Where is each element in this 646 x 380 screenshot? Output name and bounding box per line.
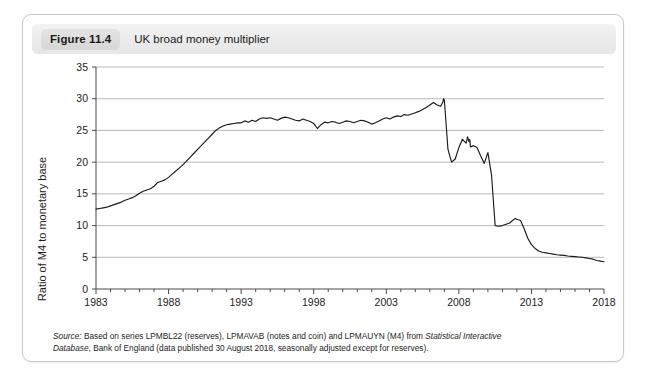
figure-title: UK broad money multiplier: [134, 33, 270, 45]
grid-lines: [96, 67, 604, 257]
money-multiplier-line-chart: 05101520253035 1983198819931998200320082…: [32, 59, 616, 321]
y-tick-label: 0: [82, 283, 88, 295]
x-tick-label: 2013: [520, 296, 544, 308]
y-tick-label: 10: [76, 219, 88, 231]
y-tick-label: 30: [76, 92, 88, 104]
source-italic-1: Statistical Interactive: [425, 331, 501, 341]
source-prefix: Source:: [53, 331, 82, 341]
source-line-2-text: , Bank of England (data published 30 Aug…: [89, 343, 429, 353]
chart-plot-area: 05101520253035 1983198819931998200320082…: [32, 59, 616, 321]
source-note: Source: Based on series LPMBL22 (reserve…: [53, 331, 598, 354]
figure-card: Figure 11.4 UK broad money multiplier 05…: [22, 14, 624, 362]
figure-header: Figure 11.4 UK broad money multiplier: [32, 24, 616, 54]
y-axis-ticks: 05101520253035: [76, 61, 96, 295]
x-tick-label: 2018: [592, 296, 616, 308]
x-tick-label: 1988: [157, 296, 181, 308]
x-tick-label: 1998: [302, 296, 326, 308]
source-italic-2: Database: [53, 343, 89, 353]
y-tick-label: 5: [82, 251, 88, 263]
y-tick-label: 25: [76, 124, 88, 136]
x-tick-label: 1993: [229, 296, 253, 308]
x-tick-label: 2008: [447, 296, 471, 308]
y-tick-label: 35: [76, 61, 88, 73]
y-axis-title: Ratio of M4 to monetary base: [36, 157, 48, 301]
source-line-1: Source: Based on series LPMBL22 (reserve…: [53, 331, 598, 343]
figure-number-badge: Figure 11.4: [41, 29, 120, 50]
y-tick-label: 15: [76, 187, 88, 199]
x-tick-label: 1983: [84, 296, 108, 308]
x-tick-label: 2003: [375, 296, 399, 308]
y-tick-label: 20: [76, 156, 88, 168]
source-line-2: Database, Bank of England (data publishe…: [53, 343, 598, 355]
data-series-line: [96, 99, 604, 262]
x-axis-ticks: 19831988199319982003200820132018: [84, 289, 616, 308]
source-line-1-text: Based on series LPMBL22 (reserves), LPMA…: [82, 331, 426, 341]
